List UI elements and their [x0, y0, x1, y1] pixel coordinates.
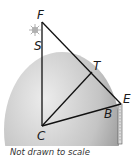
figure-caption: Not drawn to scale — [10, 147, 90, 157]
point-label-B: B — [104, 107, 112, 121]
globe — [4, 52, 120, 160]
point-label-S: S — [34, 39, 42, 53]
point-label-T: T — [93, 59, 102, 73]
point-label-C: C — [37, 129, 46, 143]
tower — [118, 104, 122, 144]
geometry-diagram: F S T E B C — [0, 0, 136, 160]
point-label-F: F — [37, 8, 45, 22]
point-label-E: E — [123, 92, 131, 106]
star-icon — [29, 24, 41, 36]
